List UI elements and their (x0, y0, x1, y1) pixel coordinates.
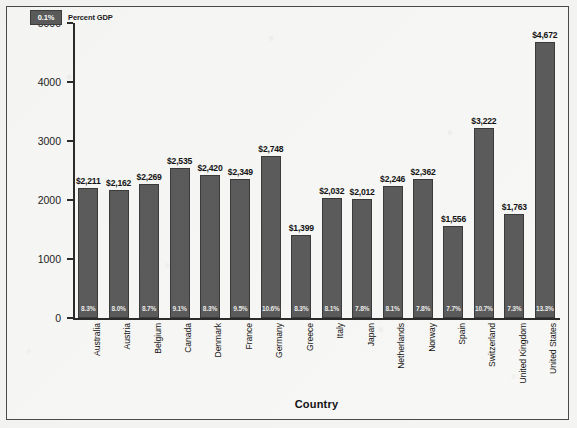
y-axis-tick-label: 4000 (0, 76, 61, 88)
bar-value-label: $2,269 (137, 172, 162, 182)
bar-value-label: $2,362 (410, 167, 435, 177)
bar-group[interactable]: 8.3%$1,399Greece (286, 23, 316, 318)
bar-group[interactable]: 8.7%$2,269Belgium (134, 23, 164, 318)
bar-group[interactable]: 9.5%$2,349France (225, 23, 255, 318)
x-axis-category-label: Canada (183, 323, 193, 353)
bar-percent-gdp-label: 10.7% (475, 305, 493, 312)
bar-percent-gdp-label: 8.0% (112, 305, 126, 312)
y-axis-tick-label: 2000 (0, 194, 61, 206)
bar-value-label: $2,535 (167, 156, 192, 166)
bar[interactable]: 10.6% (261, 156, 281, 318)
bar-group[interactable]: 8.3%$2,420Denmark (195, 23, 225, 318)
x-axis-category-label: Norway (427, 323, 437, 352)
bar[interactable]: 8.1% (383, 186, 403, 319)
bar-group[interactable]: 7.8%$2,362Norway (408, 23, 438, 318)
x-axis-category-label: United States (548, 323, 558, 374)
bar-group[interactable]: 8.1%$2,246Netherlands (377, 23, 407, 318)
bar-percent-gdp-label: 8.1% (385, 305, 399, 312)
bar-group[interactable]: 9.1%$2,535Canada (164, 23, 194, 318)
bar-group[interactable]: 13.3%$4,672United States (530, 23, 560, 318)
x-axis-title: Country (73, 398, 560, 410)
y-axis-tick-label: 0 (0, 312, 61, 324)
y-axis-tick-label: 1000 (0, 253, 61, 265)
bar-group[interactable]: 10.7%$3,222Switzerland (469, 23, 499, 318)
bar[interactable]: 8.3% (291, 235, 311, 318)
bar-group[interactable]: 7.8%$2,012Japan (347, 23, 377, 318)
bar-group[interactable]: 7.7%$1,556Spain (438, 23, 468, 318)
x-axis-category-label: Switzerland (487, 323, 497, 367)
x-axis-category-label: Austria (122, 323, 132, 349)
x-axis-category-label: Spain (457, 323, 467, 345)
bar-value-label: $1,556 (441, 214, 466, 224)
bar-percent-gdp-label: 8.3% (81, 305, 95, 312)
legend-label-percent-gdp: Percent GDP (68, 13, 113, 22)
chart-screenshot: 0.1% Percent GDP 010002000300040005000 P… (0, 0, 577, 428)
bar-percent-gdp-label: 13.3% (536, 305, 554, 312)
bar-value-label: $2,420 (197, 163, 222, 173)
bar[interactable]: 13.3% (535, 42, 555, 318)
bar-value-label: $2,012 (350, 187, 375, 197)
bar-value-label: $3,222 (471, 116, 496, 126)
x-axis-category-label: Germany (274, 323, 284, 358)
bar[interactable]: 9.5% (230, 179, 250, 318)
x-axis-category-label: United Kingdom (518, 323, 528, 383)
x-axis-category-label: Australia (92, 323, 102, 356)
bar-group[interactable]: 7.3%$1,763United Kingdom (499, 23, 529, 318)
bar[interactable]: 10.7% (474, 128, 494, 318)
bar-percent-gdp-label: 8.3% (294, 305, 308, 312)
bar[interactable]: 7.7% (443, 226, 463, 318)
chart-legend: 0.1% Percent GDP (30, 10, 113, 25)
bar-value-label: $4,672 (532, 30, 557, 40)
bar-percent-gdp-label: 8.7% (142, 305, 156, 312)
bar-group[interactable]: 8.1%$2,032Italy (317, 23, 347, 318)
bar[interactable]: 9.1% (170, 168, 190, 318)
bar-percent-gdp-label: 8.3% (203, 305, 217, 312)
bar-percent-gdp-label: 7.3% (507, 305, 521, 312)
bar-percent-gdp-label: 8.1% (325, 305, 339, 312)
bar-group[interactable]: 10.6%$2,748Germany (256, 23, 286, 318)
x-axis-category-label: Belgium (153, 323, 163, 354)
bar[interactable]: 8.7% (139, 184, 159, 318)
bar-value-label: $2,748 (258, 144, 283, 154)
bar-group[interactable]: 8.0%$2,162Austria (103, 23, 133, 318)
bar-value-label: $2,246 (380, 174, 405, 184)
bar-value-label: $1,399 (289, 223, 314, 233)
x-axis-category-label: Netherlands (396, 323, 406, 369)
bar-value-label: $2,162 (106, 178, 131, 188)
bar[interactable]: 8.0% (109, 190, 129, 318)
bar-value-label: $2,032 (319, 186, 344, 196)
bar[interactable]: 7.3% (504, 214, 524, 318)
x-axis-category-label: France (244, 323, 254, 349)
bar[interactable]: 8.3% (78, 188, 98, 318)
bar[interactable]: 7.8% (413, 179, 433, 318)
bar[interactable]: 8.3% (200, 175, 220, 318)
bar-value-label: $2,211 (76, 176, 101, 186)
plot-area: 8.3%$2,211Australia8.0%$2,162Austria8.7%… (73, 23, 560, 318)
y-axis-tick-label: 3000 (0, 135, 61, 147)
bar[interactable]: 8.1% (322, 198, 342, 318)
x-axis-category-label: Denmark (213, 323, 223, 358)
legend-swatch-percent-gdp: 0.1% (30, 10, 62, 25)
x-axis-category-label: Italy (335, 323, 345, 339)
bar-percent-gdp-label: 10.6% (262, 305, 280, 312)
bar-value-label: $1,763 (502, 202, 527, 212)
x-axis-category-label: Greece (305, 323, 315, 351)
bar-series: 8.3%$2,211Australia8.0%$2,162Austria8.7%… (73, 23, 560, 318)
bar-value-label: $2,349 (228, 167, 253, 177)
bar-group[interactable]: 8.3%$2,211Australia (73, 23, 103, 318)
bar-percent-gdp-label: 7.7% (446, 305, 460, 312)
x-axis-category-label: Japan (366, 323, 376, 346)
bar-percent-gdp-label: 7.8% (416, 305, 430, 312)
bar-percent-gdp-label: 9.1% (172, 305, 186, 312)
bar-percent-gdp-label: 7.8% (355, 305, 369, 312)
bar[interactable]: 7.8% (352, 199, 372, 318)
bar-percent-gdp-label: 9.5% (233, 305, 247, 312)
